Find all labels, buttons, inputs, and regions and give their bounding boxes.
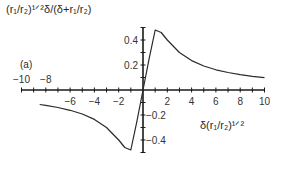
- x-tick-label: 6: [213, 96, 219, 107]
- x-tick-label: −4: [89, 96, 101, 107]
- y-tick-label: 0.4: [124, 35, 138, 46]
- x-tick-label: −6: [64, 96, 76, 107]
- x-tick-label: 10: [259, 96, 271, 107]
- y-tick-label: 0.2: [124, 60, 138, 71]
- x-tick-label: −8: [40, 74, 52, 85]
- x-tick-label: −10: [13, 74, 30, 85]
- y-tick-label: −0.4: [146, 135, 166, 146]
- x-tick-label: −2: [113, 96, 125, 107]
- x-tick-label: 2: [165, 96, 171, 107]
- x-tick-label: 8: [237, 96, 243, 107]
- y-tick-label: −0.2: [146, 110, 166, 121]
- line-chart: −10−8−6−4−22468100.40.2−0.2−0.4: [0, 0, 284, 171]
- x-tick-label: 4: [189, 96, 195, 107]
